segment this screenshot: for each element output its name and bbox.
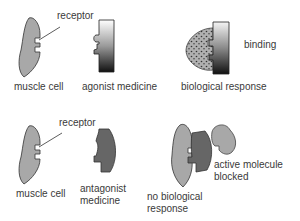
muscle-cell-shape	[19, 18, 40, 77]
blocked-muscle-cell-shape	[172, 124, 193, 187]
receptor-label-2: receptor	[59, 117, 96, 128]
receptor-pointer-line	[39, 27, 60, 40]
biological-response-label: biological response	[181, 81, 267, 92]
antagonist-medicine-shape	[94, 129, 116, 172]
muscle-cell-shape-2	[19, 126, 40, 184]
no-response-label-line2: response	[147, 203, 188, 214]
receptor-pointer-line-2	[39, 133, 62, 147]
blocked-label-line1: active molecule	[214, 159, 283, 170]
muscle-cell-label-2: muscle cell	[16, 188, 65, 199]
muscle-cell-label: muscle cell	[14, 81, 63, 92]
agonist-medicine-shape	[94, 20, 114, 72]
antagonist-label-line2: medicine	[80, 195, 120, 206]
receptor-label: receptor	[57, 10, 94, 21]
active-molecule-shape	[212, 125, 236, 154]
agonist-medicine-label: agonist medicine	[82, 81, 157, 92]
bound-cell-shape	[186, 28, 213, 70]
blocked-label-line2: blocked	[214, 171, 248, 182]
no-response-label-line1: no biological	[147, 191, 203, 202]
antagonist-label-line1: antagonist	[80, 183, 126, 194]
binding-label: binding	[244, 39, 276, 50]
